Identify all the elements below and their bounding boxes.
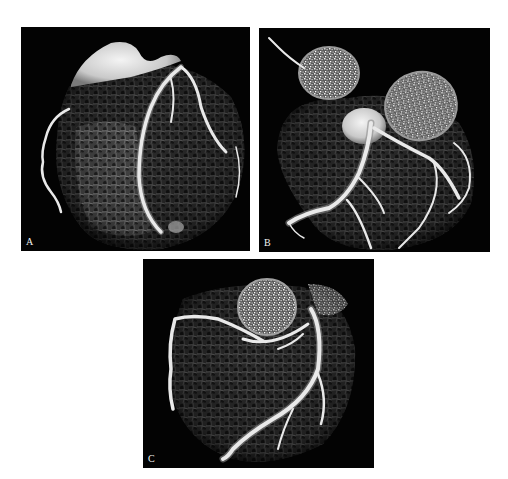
- heart-rendering-b: [259, 28, 490, 252]
- panel-label-a: A: [26, 236, 33, 247]
- panel-label-b: B: [264, 237, 271, 248]
- figure-panel-b: B: [259, 28, 490, 252]
- heart-rendering-a: [21, 27, 250, 251]
- panel-label-c: C: [148, 453, 155, 464]
- figure-panel-c: C: [143, 259, 374, 468]
- heart-rendering-c: [143, 259, 374, 468]
- figure-panel-a: A: [21, 27, 250, 251]
